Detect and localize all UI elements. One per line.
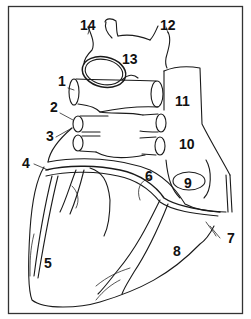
ventricles-outline (29, 159, 232, 307)
label-5: 5 (44, 255, 52, 271)
pulmonary-veins (73, 112, 166, 155)
heart-diagram: 1 2 3 4 5 6 7 8 9 10 11 12 13 14 (0, 0, 251, 319)
vena-cava-atrium (164, 67, 230, 175)
label-11: 11 (175, 93, 190, 109)
label-6: 6 (145, 168, 153, 184)
label-13: 13 (122, 51, 138, 67)
labels: 1 2 3 4 5 6 7 8 9 10 11 12 13 14 (22, 17, 235, 271)
label-9: 9 (184, 175, 192, 191)
label-4: 4 (22, 155, 30, 171)
label-7: 7 (227, 230, 235, 246)
pulmonary-artery-tube (69, 79, 163, 112)
label-1: 1 (58, 73, 66, 89)
label-10: 10 (179, 136, 195, 152)
label-2: 2 (50, 99, 58, 115)
label-12: 12 (160, 17, 176, 33)
label-3: 3 (46, 128, 54, 144)
label-8: 8 (173, 243, 181, 259)
label-14: 14 (80, 17, 96, 33)
